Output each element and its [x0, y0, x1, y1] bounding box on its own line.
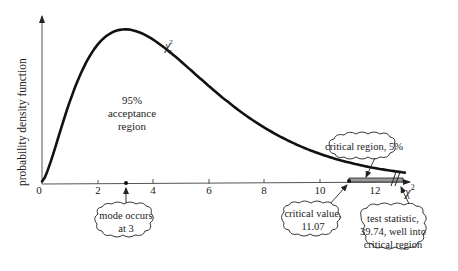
- mode-callout: mode occurs at 3: [95, 188, 154, 237]
- x-tick-label: 4: [150, 184, 156, 196]
- svg-text:11.07: 11.07: [301, 221, 324, 232]
- y-axis-label: probability density function: [16, 58, 29, 186]
- x-axis-label: χ2: [403, 183, 415, 199]
- acceptance-region-label: acceptance: [108, 107, 156, 119]
- x-tick-label: 10: [315, 184, 327, 196]
- critical-value-point: [347, 179, 351, 183]
- test-statistic-callout: test statistic, 39.74, well into critica…: [360, 187, 426, 250]
- svg-text:critical region: critical region: [364, 239, 423, 250]
- svg-text:test statistic,: test statistic,: [367, 213, 419, 224]
- mode-point: [124, 181, 128, 185]
- acceptance-region-label: region: [118, 120, 147, 132]
- x-tick-label: 6: [206, 184, 212, 196]
- svg-text:39.74, well into: 39.74, well into: [360, 226, 426, 237]
- svg-text:mode occurs: mode occurs: [99, 210, 152, 221]
- x-tick-label: 0: [36, 184, 42, 196]
- svg-text:at 3: at 3: [118, 223, 133, 234]
- svg-text:critical region, 5%: critical region, 5%: [325, 141, 403, 152]
- x-tick-label: 8: [261, 184, 267, 196]
- critical-region-shading: [349, 178, 403, 182]
- x-tick-label: 2: [95, 184, 101, 196]
- chi-square-chart: probability density function 0 2 4 6 8 1…: [0, 0, 458, 271]
- acceptance-region-label: 95%: [122, 94, 142, 106]
- curve-label: χ25: [164, 38, 173, 56]
- svg-text:critical value,: critical value,: [284, 208, 341, 219]
- x-tick-label: 12: [370, 184, 381, 196]
